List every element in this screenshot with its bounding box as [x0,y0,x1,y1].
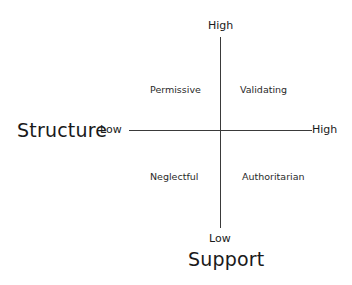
y-axis-high-label: High [208,19,233,32]
x-axis-title: Structure [17,119,107,141]
quadrant-top-right-label: Validating [240,84,287,95]
x-axis-high-label: High [312,123,337,136]
quadrant-bottom-left-label: Neglectful [150,171,198,182]
y-axis-low-label: Low [209,232,231,245]
x-axis-low-label: Low [100,123,122,136]
y-axis-title: Support [188,248,265,270]
quadrant-top-left-label: Permissive [150,84,201,95]
quadrant-bottom-right-label: Authoritarian [242,171,305,182]
vertical-axis-line [220,37,221,228]
